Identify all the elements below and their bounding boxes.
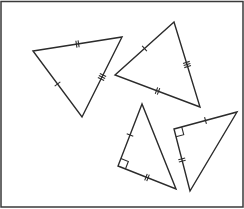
triangles-diagram	[0, 0, 244, 209]
triangle-3	[118, 104, 176, 189]
triangle-3-outline	[118, 104, 176, 189]
triangle-1-outline	[33, 37, 122, 117]
triangle-4	[174, 112, 237, 191]
diagram-border	[1, 2, 243, 208]
diagram-frame	[0, 0, 244, 209]
triangle-1	[33, 37, 122, 117]
congruence-tick-mark	[78, 40, 79, 47]
congruence-tick-mark	[55, 82, 61, 86]
triangle-2	[115, 22, 200, 107]
congruence-tick-mark	[76, 41, 77, 48]
triangles-group	[33, 22, 237, 191]
triangle-4-outline	[174, 112, 237, 191]
